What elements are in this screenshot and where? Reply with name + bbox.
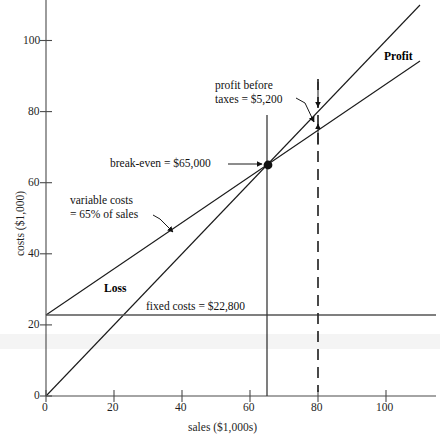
y-tick-label-100: 100 [23, 34, 40, 48]
annotation-loss-region: Loss [104, 282, 126, 296]
annotation-profit-before-taxes-line2: taxes = $5,200 [215, 93, 283, 107]
x-axis-title: sales ($1,000s) [188, 421, 257, 435]
x-tick-label-20: 20 [107, 401, 119, 415]
x-tick-label-40: 40 [175, 401, 187, 415]
y-tick-label-0: 0 [34, 389, 40, 403]
y-tick-label-80: 80 [28, 105, 40, 119]
annotation-variable-costs-line1: variable costs [70, 194, 133, 208]
annotation-profit-region: Profit [384, 50, 413, 64]
y-tick-label-20: 20 [28, 318, 40, 332]
annotation-fixed-costs: fixed costs = $22,800 [146, 300, 245, 314]
x-tick-label-60: 60 [243, 401, 255, 415]
y-tick-label-60: 60 [28, 176, 40, 190]
variable-costs-leader [153, 215, 173, 232]
y-axis-title: costs ($1,000) [14, 191, 26, 256]
break-even-point [264, 161, 273, 170]
x-tick-label-0: 0 [42, 401, 48, 415]
annotation-variable-costs-line2: = 65% of sales [70, 208, 138, 222]
y-tick-label-40: 40 [28, 247, 40, 261]
x-tick-label-80: 80 [311, 401, 323, 415]
break-even-chart: 100 80 60 40 20 0 0 20 40 60 80 100 sale… [0, 0, 440, 444]
chart-canvas [0, 0, 440, 444]
annotation-break-even: break-even = $65,000 [110, 157, 211, 171]
x-tick-label-100: 100 [376, 401, 393, 415]
annotation-profit-before-taxes-line1: profit before [215, 79, 273, 93]
